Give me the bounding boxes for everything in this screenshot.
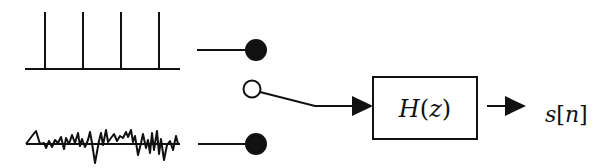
voiced-contact-dot [246,40,266,60]
switch-arm [260,92,353,106]
output-arrow [487,96,526,116]
filter-block: H(z) [373,77,477,139]
input-arrowhead-icon [352,96,373,116]
noise-waveform [26,130,180,163]
impulse-train-source [25,12,180,69]
source-filter-diagram: H(z) s[n] [0,0,603,168]
noise-source [26,130,180,163]
switch [197,40,353,154]
switch-pivot-circle [244,81,261,98]
filter-label: H(z) [398,95,451,123]
unvoiced-contact-dot [246,134,266,154]
output-label: s[n] [545,102,588,127]
output-arrowhead-icon [505,96,526,116]
